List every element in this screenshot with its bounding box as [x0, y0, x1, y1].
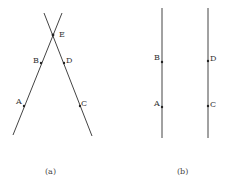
diagram: A B C D E (a) B A D C (b)	[0, 0, 227, 182]
label-c: C	[81, 99, 87, 108]
point-a	[23, 105, 25, 107]
point-e	[52, 34, 55, 37]
label-d: D	[66, 56, 72, 65]
caption-b: (b)	[177, 167, 188, 176]
caption-a: (a)	[45, 167, 56, 176]
label-b: B	[154, 53, 160, 62]
line-ab	[13, 13, 62, 135]
label-a: A	[153, 99, 160, 108]
label-c: C	[210, 100, 216, 109]
point-b	[40, 62, 42, 64]
figure-b: B A D C (b)	[153, 8, 216, 176]
line-cd	[44, 13, 92, 136]
point-b	[161, 61, 163, 63]
point-c	[207, 105, 209, 107]
label-a: A	[15, 97, 22, 106]
figure-a: A B C D E (a)	[13, 13, 92, 176]
label-d: D	[210, 54, 216, 63]
label-e: E	[59, 30, 65, 39]
point-d	[63, 62, 65, 64]
label-b: B	[33, 56, 39, 65]
point-d	[207, 60, 209, 62]
point-a	[161, 106, 163, 108]
